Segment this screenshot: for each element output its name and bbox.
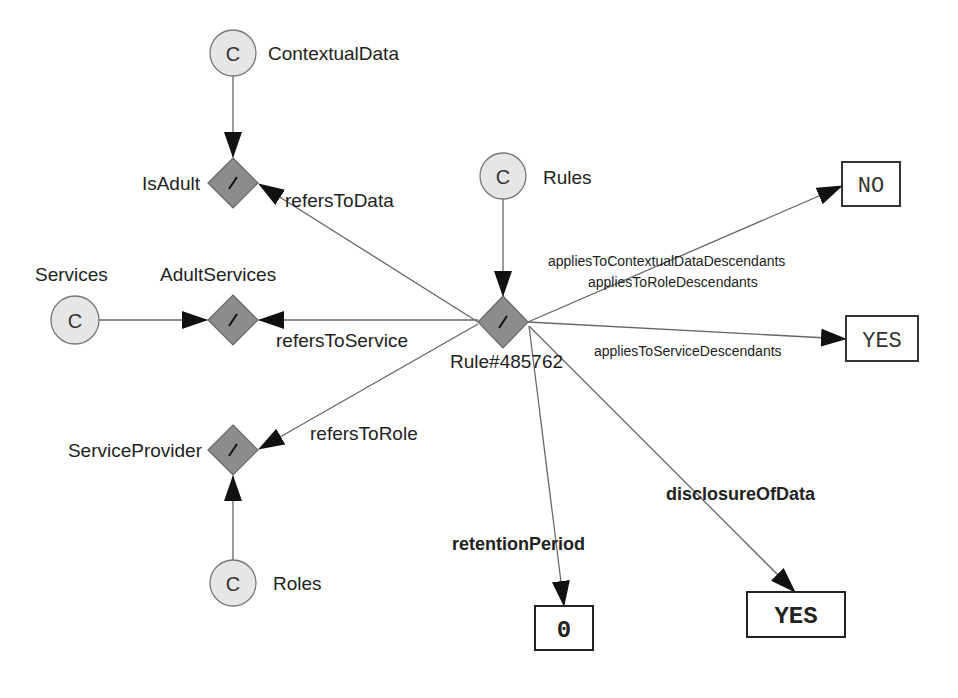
class-label-services: Services <box>35 264 108 285</box>
instance-node-adultservices[interactable]: AdultServices <box>160 264 276 345</box>
edge-applies-service <box>528 322 846 339</box>
class-label-contextualdata: ContextualData <box>268 43 399 64</box>
class-label-rules: Rules <box>543 167 592 188</box>
literal-box-no[interactable]: NO <box>842 162 900 206</box>
class-glyph: C <box>226 43 240 65</box>
literal-box-retention[interactable]: 0 <box>535 606 593 650</box>
instance-label-rule: Rule#485762 <box>450 351 563 372</box>
edge-label-refers-to-data: refersToData <box>285 190 394 211</box>
edge-label-applies-role: appliesToRoleDescendants <box>588 274 758 290</box>
edge-label-retention-period: retentionPeriod <box>452 534 585 554</box>
class-glyph: C <box>226 573 240 595</box>
edges <box>98 76 846 606</box>
ontology-diagram: C ContextualData C Rules C Services C Ro… <box>0 0 958 698</box>
edge-label-refers-to-role: refersToRole <box>310 423 418 444</box>
literal-value-yes-service: YES <box>862 329 902 354</box>
class-node-contextualdata[interactable]: C ContextualData <box>210 30 399 76</box>
class-node-rules[interactable]: C Rules <box>480 153 592 199</box>
literal-value-retention: 0 <box>557 617 571 644</box>
literal-value-no: NO <box>858 174 884 199</box>
instance-node-serviceprovider[interactable]: ServiceProvider <box>68 425 258 475</box>
class-node-services[interactable]: C Services <box>35 264 108 344</box>
literal-box-disclosure[interactable]: YES <box>747 592 845 637</box>
edge-label-disclosure-of-data: disclosureOfData <box>666 484 816 504</box>
class-label-roles: Roles <box>273 573 322 594</box>
literal-value-disclosure: YES <box>774 603 817 630</box>
class-glyph: C <box>68 310 82 332</box>
class-node-roles[interactable]: C Roles <box>210 560 322 606</box>
instance-node-isadult[interactable]: IsAdult <box>142 158 258 208</box>
edge-label-applies-contextual: appliesToContextualDataDescendants <box>548 253 785 269</box>
edge-label-refers-to-service: refersToService <box>276 330 408 351</box>
instance-node-rule[interactable]: Rule#485762 <box>450 296 563 372</box>
instance-label-isadult: IsAdult <box>142 173 201 194</box>
edge-label-applies-service: appliesToServiceDescendants <box>594 343 782 359</box>
literal-box-yes-service[interactable]: YES <box>846 316 918 361</box>
instance-label-adultservices: AdultServices <box>160 264 276 285</box>
class-glyph: C <box>496 166 510 188</box>
instance-label-serviceprovider: ServiceProvider <box>68 440 203 461</box>
